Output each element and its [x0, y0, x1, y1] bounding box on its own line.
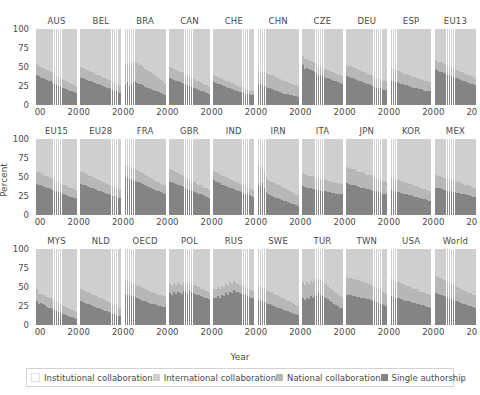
x-tick-00: 00	[256, 107, 267, 117]
bar	[430, 139, 432, 215]
bar	[208, 139, 210, 215]
bar	[341, 249, 343, 325]
bar-segment-national	[208, 87, 210, 94]
bar-segment-national	[119, 86, 121, 93]
x-tick-20: 20	[289, 217, 300, 227]
legend-item-international-collaboration[interactable]: International collaboration	[153, 373, 276, 383]
bar-segment-single	[164, 307, 166, 325]
bar-segment-international	[430, 249, 432, 295]
facet-label-ita: ITA	[302, 122, 343, 139]
legend-item-national-collaboration[interactable]: National collaboration	[276, 373, 381, 383]
bar-group	[213, 29, 254, 105]
facet-label-fra: FRA	[125, 122, 166, 139]
bar-segment-national	[164, 84, 166, 95]
x-tick-20: 20	[378, 327, 389, 337]
x-tick-20: 20	[466, 327, 477, 337]
y-tick-100: 100	[13, 24, 29, 34]
panel-bra	[125, 29, 166, 105]
x-tick-00: 00	[35, 327, 46, 337]
panel-gbr	[169, 139, 210, 215]
bar-segment-national	[119, 308, 121, 316]
bar-group	[36, 29, 77, 105]
bar	[385, 139, 387, 215]
bar-segment-single	[119, 316, 121, 325]
panel-rus	[213, 249, 254, 325]
x-tick-00: 00	[256, 217, 267, 227]
x-tick-20: 20	[201, 327, 212, 337]
bar-segment-national	[164, 185, 166, 193]
facet-label-can: CAN	[169, 12, 210, 29]
bar-segment-national	[430, 191, 432, 200]
panel-can	[169, 29, 210, 105]
bar-segment-national	[474, 78, 476, 85]
bar-segment-international	[119, 29, 121, 86]
bar-group	[258, 139, 299, 215]
x-tick-00: 00	[168, 327, 179, 337]
panel-kor	[391, 139, 432, 215]
x-axis: 0020002000200020002000200020002000200020	[36, 217, 476, 230]
legend-label: National collaboration	[287, 373, 381, 383]
legend-swatch-icon	[381, 374, 388, 381]
bar-group	[435, 29, 476, 105]
bar-group	[169, 139, 210, 215]
bar-segment-national	[75, 312, 77, 319]
bar-segment-international	[119, 139, 121, 190]
bar-segment-national	[341, 184, 343, 195]
x-tick-00: 00	[35, 217, 46, 227]
facet-label-nld: NLD	[80, 232, 121, 249]
y-tick-75: 75	[18, 153, 29, 163]
bar-segment-international	[297, 249, 299, 306]
bar-group	[346, 249, 387, 325]
panel-world	[435, 249, 476, 325]
x-tick-20: 20	[334, 107, 345, 117]
legend-item-institutional-collaboration[interactable]: Institutional collaboration	[31, 373, 153, 383]
bar-segment-single	[75, 319, 77, 325]
x-axis: 0020002000200020002000200020002000200020	[36, 327, 476, 340]
x-tick-00: 00	[389, 327, 400, 337]
bar-segment-single	[119, 93, 121, 105]
bar	[208, 249, 210, 325]
panel-usa	[391, 249, 432, 325]
facet-strip: AUSBELBRACANCHECHNCZEDEUESPEU13	[36, 12, 476, 29]
bar	[297, 139, 299, 215]
x-tick-00: 00	[256, 327, 267, 337]
bar-segment-international	[474, 29, 476, 78]
bar-segment-international	[164, 249, 166, 296]
panel-pol	[169, 249, 210, 325]
bar	[341, 139, 343, 215]
panel-oecd	[125, 249, 166, 325]
panel-eu28	[80, 139, 121, 215]
bar-group	[213, 139, 254, 215]
facet-label-kor: KOR	[391, 122, 432, 139]
bar	[474, 29, 476, 105]
panel-eu15	[36, 139, 77, 215]
bar	[474, 139, 476, 215]
x-tick-00: 00	[389, 107, 400, 117]
bar-segment-national	[341, 297, 343, 308]
panel-nld	[80, 249, 121, 325]
facet-strip: MYSNLDOECDPOLRUSSWETURTWNUSAWorld	[36, 232, 476, 249]
bar-segment-single	[164, 194, 166, 215]
bar-group	[80, 29, 121, 105]
bar-segment-international	[75, 139, 77, 190]
x-tick-20: 20	[201, 107, 212, 117]
bar-segment-single	[208, 94, 210, 105]
panel-aus	[36, 29, 77, 105]
x-tick-20: 20	[334, 327, 345, 337]
panel-chn	[258, 29, 299, 105]
bar-segment-single	[385, 90, 387, 105]
bar-group	[169, 249, 210, 325]
panel-twn	[346, 249, 387, 325]
legend-swatch-icon	[153, 374, 160, 381]
bar	[119, 29, 121, 105]
legend-item-single-authorship[interactable]: Single authorship	[381, 373, 466, 383]
bar-group	[346, 139, 387, 215]
bar-segment-single	[252, 197, 254, 215]
bar-group	[302, 249, 343, 325]
panel-esp	[391, 29, 432, 105]
x-tick-20: 20	[112, 217, 123, 227]
x-tick-20: 20	[422, 217, 433, 227]
x-tick-20: 20	[466, 107, 477, 117]
panel-fra	[125, 139, 166, 215]
bar-group	[80, 139, 121, 215]
